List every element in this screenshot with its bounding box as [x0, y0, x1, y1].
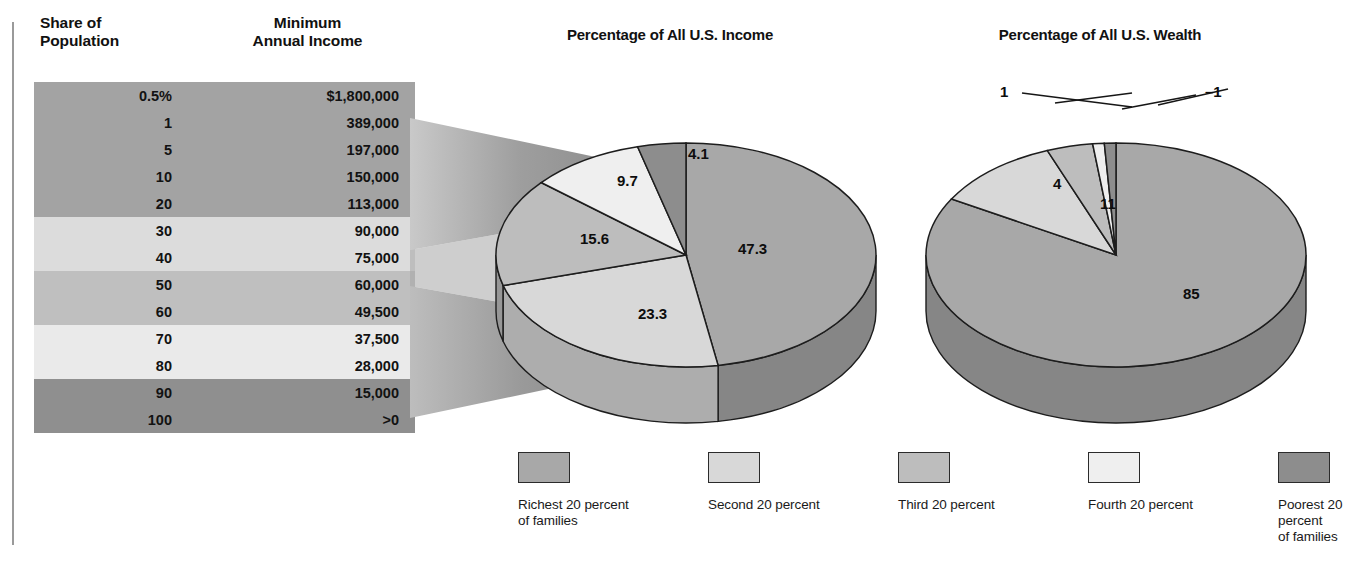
cell-minimum-annual-income: 75,000 [174, 250, 415, 266]
pie-chart-income: 47.323.315.69.74.1 [470, 55, 900, 435]
pie-value-label-2: 4 [1053, 175, 1061, 192]
cell-share-of-population: 50 [34, 277, 174, 293]
pie-wealth-leader-lines [1022, 89, 1228, 109]
legend-swatch-1 [708, 452, 760, 483]
legend-swatch-3 [1088, 452, 1140, 483]
cell-share-of-population: 60 [34, 304, 174, 320]
cell-minimum-annual-income: $1,800,000 [174, 88, 415, 104]
table-row: 9015,000 [34, 379, 415, 406]
table-row: 3090,000 [34, 217, 415, 244]
cell-share-of-population: 1 [34, 115, 174, 131]
table-row: 10150,000 [34, 163, 415, 190]
table-row: 8028,000 [34, 352, 415, 379]
cell-share-of-population: 0.5% [34, 88, 174, 104]
table-row: 5060,000 [34, 271, 415, 298]
cell-share-of-population: 5 [34, 142, 174, 158]
cell-share-of-population: 40 [34, 250, 174, 266]
table-header-share-of-population: Share of Population [40, 14, 119, 50]
cell-minimum-annual-income: 90,000 [174, 223, 415, 239]
table-row: 7037,500 [34, 325, 415, 352]
cell-share-of-population: 10 [34, 169, 174, 185]
table-row: 4075,000 [34, 244, 415, 271]
chart-legend: Richest 20 percent of familiesSecond 20 … [505, 452, 1355, 557]
legend-label-2: Third 20 percent [898, 497, 995, 513]
cell-minimum-annual-income: 197,000 [174, 142, 415, 158]
cell-share-of-population: 80 [34, 358, 174, 374]
cell-minimum-annual-income: 28,000 [174, 358, 415, 374]
legend-item-4[interactable]: Poorest 20 percent of families [1278, 452, 1355, 545]
legend-label-0: Richest 20 percent of families [518, 497, 629, 529]
income-distribution-table: 0.5%$1,800,0001389,0005197,00010150,0002… [34, 82, 415, 434]
cell-minimum-annual-income: 49,500 [174, 304, 415, 320]
legend-swatch-4 [1278, 452, 1330, 483]
pie-value-label-0: 85 [1183, 285, 1200, 302]
cell-minimum-annual-income: 15,000 [174, 385, 415, 401]
cell-share-of-population: 20 [34, 196, 174, 212]
table-row: 1389,000 [34, 109, 415, 136]
legend-label-1: Second 20 percent [708, 497, 820, 513]
cell-share-of-population: 100 [34, 412, 174, 428]
cell-minimum-annual-income: 113,000 [174, 196, 415, 212]
pie-value-label-4: –1 [1205, 83, 1222, 100]
table-header-minimum-annual-income: Minimum Annual Income [200, 14, 415, 50]
pie-wealth-svg [900, 55, 1330, 435]
legend-item-1[interactable]: Second 20 percent [708, 452, 820, 513]
cell-minimum-annual-income: 37,500 [174, 331, 415, 347]
table-row: 5197,000 [34, 136, 415, 163]
chart-title-wealth: Percentage of All U.S. Wealth [950, 26, 1250, 43]
table-row: 0.5%$1,800,000 [34, 82, 415, 109]
pie-value-label-3: 1 [1000, 83, 1008, 100]
pie-chart-wealth: 851141–1 [900, 55, 1330, 435]
legend-item-2[interactable]: Third 20 percent [898, 452, 995, 513]
legend-label-4: Poorest 20 percent of families [1278, 497, 1355, 545]
infographic-page: Share of Population Minimum Annual Incom… [0, 0, 1363, 567]
pie-value-label-2: 15.6 [580, 230, 609, 247]
chart-title-income: Percentage of All U.S. Income [520, 26, 820, 43]
left-vertical-rule [12, 22, 14, 545]
legend-item-3[interactable]: Fourth 20 percent [1088, 452, 1193, 513]
cell-share-of-population: 70 [34, 331, 174, 347]
table-row: 20113,000 [34, 190, 415, 217]
legend-swatch-2 [898, 452, 950, 483]
legend-item-0[interactable]: Richest 20 percent of families [518, 452, 629, 529]
cell-minimum-annual-income: >0 [174, 412, 415, 428]
pie-value-label-1: 11 [1100, 195, 1116, 212]
pie-value-label-4: 4.1 [688, 145, 709, 162]
cell-share-of-population: 90 [34, 385, 174, 401]
cell-minimum-annual-income: 60,000 [174, 277, 415, 293]
table-row: 6049,500 [34, 298, 415, 325]
cell-share-of-population: 30 [34, 223, 174, 239]
cell-minimum-annual-income: 150,000 [174, 169, 415, 185]
pie-income-svg [470, 55, 900, 435]
cell-minimum-annual-income: 389,000 [174, 115, 415, 131]
pie-value-label-1: 23.3 [638, 305, 667, 322]
legend-label-3: Fourth 20 percent [1088, 497, 1193, 513]
pie-value-label-0: 47.3 [738, 240, 767, 257]
legend-swatch-0 [518, 452, 570, 483]
table-row: 100>0 [34, 406, 415, 433]
pie-value-label-3: 9.7 [617, 172, 638, 189]
